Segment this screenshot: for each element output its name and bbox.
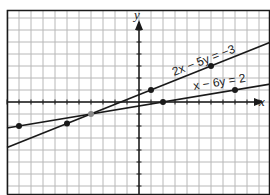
- coordinate-graph: x y 2x − 5y = −3 x − 6y = 2: [0, 0, 270, 195]
- x-axis-label: x: [258, 94, 265, 109]
- data-point: [148, 87, 154, 93]
- y-axis-label: y: [132, 7, 140, 22]
- data-point: [64, 121, 70, 127]
- data-point: [16, 123, 22, 129]
- data-point: [160, 99, 166, 105]
- data-point: [232, 87, 238, 93]
- intersection-point: [88, 111, 94, 117]
